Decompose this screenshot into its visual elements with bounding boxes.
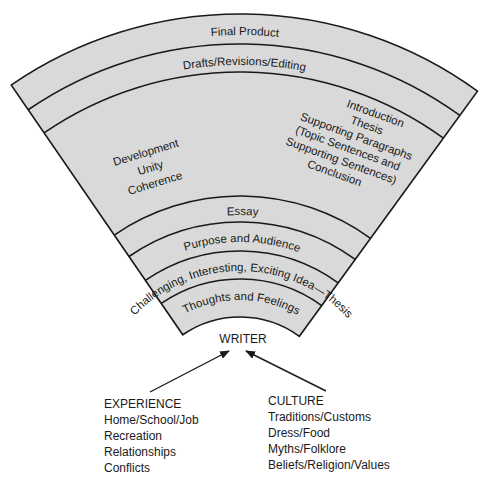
culture-list: CULTURE Traditions/Customs Dress/Food My…: [268, 393, 390, 473]
culture-arrow: [246, 351, 326, 391]
experience-item: Recreation: [104, 428, 199, 444]
culture-item: Beliefs/Religion/Values: [268, 457, 390, 473]
band-label-essay: Essay: [226, 205, 259, 218]
culture-item: Myths/Folklore: [268, 441, 390, 457]
culture-title: CULTURE: [268, 393, 390, 409]
writing-process-fan-diagram: Final ProductDrafts/Revisions/EditingEss…: [0, 0, 484, 488]
experience-arrow: [150, 351, 229, 392]
experience-item: Relationships: [104, 444, 199, 460]
experience-title: EXPERIENCE: [104, 396, 199, 412]
writer-label: WRITER: [219, 332, 267, 346]
experience-item: Home/School/Job: [104, 412, 199, 428]
experience-item: Conflicts: [104, 460, 199, 476]
culture-item: Dress/Food: [268, 425, 390, 441]
band-label-final-product: Final Product: [210, 25, 280, 39]
experience-list: EXPERIENCE Home/School/Job Recreation Re…: [104, 396, 199, 476]
culture-item: Traditions/Customs: [268, 409, 390, 425]
